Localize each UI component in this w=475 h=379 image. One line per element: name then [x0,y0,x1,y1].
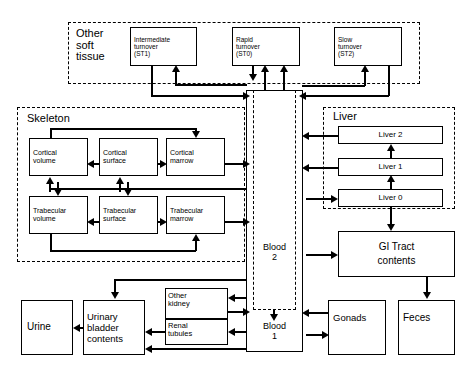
arrowhead-tv-to-tm [192,234,200,241]
arrowhead-blood2-blood1 [270,314,278,321]
node-rapid-turnover-st0[interactable]: Rapid turnover (ST0) [232,27,300,66]
node-gi-tract-contents[interactable]: GI Tract contents [338,231,455,277]
arrowhead-blood-to-st1 [172,65,180,72]
node-label: Urine [22,322,51,333]
arrowhead-blood-to-bladder [145,345,152,353]
conn-blood-to-st2-h [302,85,365,87]
arrowhead-gi-to-feces [423,292,431,299]
conn-tv-down [50,234,52,251]
arrowhead-renal-to-bladder [145,328,152,336]
node-urine[interactable]: Urine [21,300,73,355]
node-label: Slow turnover (ST2) [335,36,362,57]
blood-2-dashed-region [253,90,296,310]
arrowhead-liver2-to-blood [302,132,309,140]
arrowhead-blood-to-st0 [261,65,269,72]
node-liver-2[interactable]: Liver 2 [338,126,443,144]
arrowhead-blood-to-other-kidney [228,294,235,302]
biokinetic-model-diagram: Other soft tissue Skeleton Liver Blood 2… [0,0,475,379]
conn-blood-to-st0-v2 [283,70,285,92]
arrowhead-bladder-to-urine [73,324,80,332]
conn-gonads-to-blood [306,312,329,314]
node-label: GI Tract contents [378,240,416,269]
node-trabecular-surface[interactable]: Trabecular surface [99,196,158,234]
arrowhead-ts-to-tm [160,218,167,226]
node-liver-0[interactable]: Liver 0 [338,189,443,207]
node-other-kidney[interactable]: Other kidney [168,292,226,308]
arrowhead-cv-to-tv [54,189,62,196]
node-renal-tubules[interactable]: Renal tubules [168,322,226,338]
arrowhead-cs-to-ts [124,189,132,196]
node-urinary-bladder-contents[interactable]: Urinary bladder contents [83,300,145,355]
arrowhead-cs-to-cm [160,160,167,168]
conn-st1-down [151,66,153,96]
node-trabecular-marrow[interactable]: Trabecular marrow [166,196,225,234]
node-label: Liver 2 [378,131,402,140]
arrowhead-gonads-to-blood [302,309,309,317]
arrowhead-blood-to-gonads [322,331,329,339]
node-cortical-surface[interactable]: Cortical surface [99,138,158,176]
conn-blood-to-bladder-h [149,348,247,350]
conn-blood-to-st1-h [175,84,247,86]
node-label: Cortical surface [100,149,127,164]
conn-st2-down [388,66,390,96]
arrowhead-blood-to-renal-tubules [228,328,235,336]
arrowhead-ts-to-tv [87,218,94,226]
node-label: Liver 0 [378,194,402,203]
arrowhead-blood-to-gi [331,251,338,259]
node-label: Trabecular volume [30,207,66,222]
blood-2-label: Blood 2 [253,243,296,262]
arrowhead-st2-to-blood [299,92,306,100]
arrowhead-tm-to-blood [243,218,250,226]
node-label: Rapid turnover (ST0) [233,36,260,57]
conn-st2-left [302,95,389,97]
conn-tv-to-tm-h [50,250,196,252]
node-label: Intermediate turnover (ST1) [131,36,170,57]
node-gonads[interactable]: Gonads [328,300,386,355]
node-label: Liver 1 [378,163,402,172]
node-label: Feces [399,313,430,324]
kidney-divider [165,318,228,320]
arrowhead-liver1-to-liver2 [387,144,395,151]
node-intermediate-turnover-st1[interactable]: Intermediate turnover (ST1) [130,27,197,66]
conn-liver1-to-blood [306,167,339,169]
arrowhead-cm-to-blood [243,160,250,168]
node-cortical-marrow[interactable]: Cortical marrow [166,138,225,176]
node-label: Trabecular marrow [167,207,203,222]
conn-blood-to-liver0 [306,198,334,200]
arrowhead-cs-to-cv [87,160,94,168]
node-label: Trabecular surface [100,207,136,222]
conn-blood-to-st0-v [264,70,266,92]
node-cortical-volume[interactable]: Cortical volume [29,138,88,176]
arrowhead-blood-to-cs [116,177,124,184]
node-liver-1[interactable]: Liver 1 [338,158,443,176]
group-title-other-soft-tissue: Other soft tissue [76,28,128,63]
node-label: Cortical marrow [167,149,194,164]
conn-bypass-h [114,279,247,281]
conn-blood-skeleton-bus [49,188,247,190]
node-trabecular-volume[interactable]: Trabecular volume [29,196,88,234]
conn-blood-to-st2-v [364,70,366,86]
node-label: Gonads [329,313,366,323]
group-title-skeleton: Skeleton [27,113,70,125]
arrowhead-cv-to-cm [192,131,200,138]
blood-1-label: Blood 1 [253,322,296,341]
arrowhead-other-kidney-to-blood [243,308,250,316]
arrowhead-bypass-to-bladder [111,292,119,299]
arrowhead-blood-to-cv [46,177,54,184]
conn-bypass-down [114,279,116,293]
arrowhead-blood-to-liver0 [331,195,338,203]
arrowhead-blood-to-st0-b [280,65,288,72]
conn-st1-right [151,95,247,97]
conn-blood-to-gi [306,254,334,256]
group-title-liver: Liver [333,111,357,123]
arrowhead-st1-to-blood [243,92,250,100]
node-label: Urinary bladder contents [84,311,123,345]
node-slow-turnover-st2[interactable]: Slow turnover (ST2) [334,27,402,66]
arrowhead-blood-to-st2 [361,65,369,72]
arrowhead-liver0-to-gi [387,224,395,231]
conn-cv-to-cm-h [50,128,196,130]
arrowhead-liver1-to-blood [302,164,309,172]
arrowhead-liver0-to-liver1 [387,175,395,182]
conn-blood-to-st1-v [175,70,177,85]
node-feces[interactable]: Feces [398,300,455,355]
